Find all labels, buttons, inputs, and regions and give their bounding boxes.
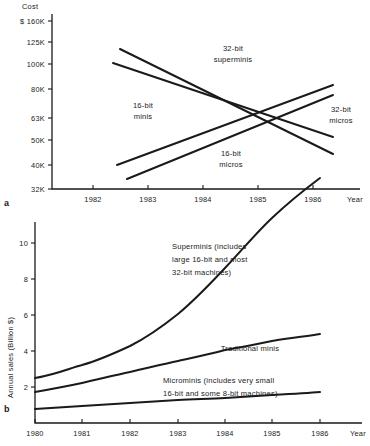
panel-a-annot-16micros-line-0: 16-bit	[221, 149, 242, 158]
panel-a-ytick-4: 63K	[31, 114, 45, 123]
panel-a-xtick-0: 1982	[84, 195, 101, 204]
panel-b-ytick-3: 4	[24, 347, 28, 356]
panel-a-annot-32micros-line-0: 32-bit	[331, 105, 352, 114]
panel-a-x-axis-title: Year	[347, 195, 363, 204]
panel-b-ytick-2: 6	[24, 311, 28, 320]
panel-a-annot-superminis-line-0: 32-bit	[223, 44, 244, 53]
panel-a-ytick-5: 50K	[31, 136, 45, 145]
panel-a-ytick-0: $ 160K	[20, 17, 45, 26]
panel-b-annot-superminis-line-2: 32-bit machines)	[172, 268, 232, 277]
panel-b-annot-traditional-line-0: Traditional minis	[221, 344, 279, 353]
panel-b-annot-superminis-line-1: large 16-bit and most	[172, 255, 248, 264]
panel-b-x-axis-title: Year	[350, 429, 366, 438]
panel-b-annot-superminis-line-0: Superminis (includes	[172, 242, 246, 251]
panel-a-annotation-32bit-micros: 32-bit micros	[329, 105, 353, 125]
panel-b-xtick-0: 1980	[26, 429, 43, 438]
panel-b-ytick-4: 2	[24, 383, 28, 392]
panel-a: $ 160K 125K 100K 80K 63K 50K 40K 32K Cos…	[4, 2, 363, 208]
panel-b: 10 8 6 4 2 Annual sales (Billion $) 1980…	[4, 178, 366, 438]
figure-container: $ 160K 125K 100K 80K 63K 50K 40K 32K Cos…	[0, 0, 370, 446]
panel-a-key: a	[4, 198, 10, 208]
two-panel-line-chart: $ 160K 125K 100K 80K 63K 50K 40K 32K Cos…	[0, 0, 370, 446]
panel-b-annot-microminis-line-1: 16-bit and some 8-bit machines)	[163, 389, 278, 398]
panel-b-xtick-3: 1983	[169, 429, 186, 438]
panel-b-xtick-5: 1985	[263, 429, 280, 438]
panel-b-xtick-6: 1986	[311, 429, 328, 438]
panel-a-annotation-superminis: 32-bit superminis	[214, 44, 253, 64]
panel-a-xtick-4: 1986	[304, 195, 321, 204]
panel-a-xtick-2: 1984	[194, 195, 211, 204]
panel-a-ytick-7: 32K	[31, 185, 45, 194]
panel-a-xtick-3: 1985	[249, 195, 266, 204]
panel-b-ytick-0: 10	[19, 239, 28, 248]
panel-b-y-axis-title: Annual sales (Billion $)	[6, 317, 15, 398]
panel-a-annot-minis-line-0: 16-bit	[133, 101, 154, 110]
panel-b-annotation-traditional-minis: Traditional minis	[221, 344, 279, 353]
panel-b-xtick-4: 1984	[216, 429, 233, 438]
panel-a-axes	[52, 14, 360, 189]
panel-a-annot-32micros-line-1: micros	[329, 116, 353, 125]
panel-b-ytick-1: 8	[24, 275, 28, 284]
panel-a-annotation-16bit-micros: 16-bit micros	[219, 149, 243, 169]
panel-a-ytick-2: 100K	[27, 60, 45, 69]
panel-b-annot-microminis-line-0: Microminis (includes very small	[163, 376, 274, 385]
panel-a-annotation-16bit-minis: 16-bit minis	[133, 101, 154, 121]
panel-a-annot-minis-line-1: minis	[134, 112, 153, 121]
panel-b-xtick-1: 1981	[73, 429, 90, 438]
panel-a-ytick-3: 80K	[31, 85, 45, 94]
panel-b-annotation-microminis: Microminis (includes very small 16-bit a…	[163, 376, 278, 398]
panel-a-ytick-1: 125K	[27, 38, 45, 47]
panel-a-xtick-1: 1983	[139, 195, 156, 204]
panel-b-annotation-superminis: Superminis (includes large 16-bit and mo…	[172, 242, 248, 277]
panel-b-xtick-2: 1982	[121, 429, 138, 438]
panel-b-key: b	[4, 404, 10, 414]
panel-a-y-axis-title: Cost	[22, 2, 38, 11]
panel-a-annot-superminis-line-1: superminis	[214, 55, 253, 64]
panel-a-ytick-6: 40K	[31, 161, 45, 170]
panel-a-annot-16micros-line-1: micros	[219, 160, 243, 169]
